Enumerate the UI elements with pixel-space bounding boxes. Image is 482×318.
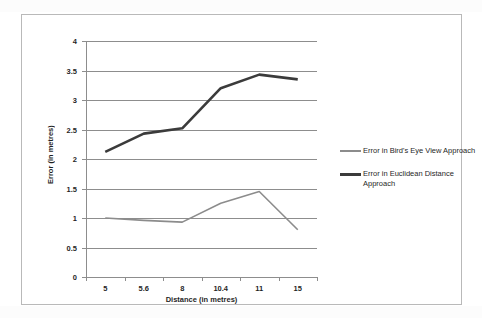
legend-item-birds-eye-view: Error in Bird's Eye View Approach — [340, 146, 480, 156]
chart-legend: Error in Bird's Eye View Approach Error … — [340, 146, 480, 202]
legend-item-euclidean-distance: Error in Euclidean Distance Approach — [340, 169, 480, 189]
legend-label-birds-eye-view: Error in Bird's Eye View Approach — [363, 146, 475, 156]
x-axis-tick — [240, 277, 241, 281]
y-axis-tick — [82, 248, 86, 249]
y-axis-tick-label: 2 — [73, 155, 77, 164]
legend-label-euclidean-distance: Error in Euclidean Distance Approach — [363, 169, 479, 189]
y-axis-tick-label: 2.5 — [67, 125, 77, 134]
y-axis-ticks: 00.511.522.533.54 — [86, 41, 87, 277]
y-axis-tick-label: 4 — [73, 37, 77, 46]
series-lines — [86, 41, 317, 277]
scan-tint-bottom — [0, 306, 482, 318]
x-axis-tick — [317, 277, 318, 281]
x-axis-tick-label: 15 — [294, 284, 302, 293]
y-axis-tick-label: 3.5 — [67, 66, 77, 75]
y-axis-tick-label: 1.5 — [67, 184, 77, 193]
x-axis-tick — [202, 277, 203, 281]
scan-tint-top — [0, 0, 482, 12]
y-axis-tick-label: 0 — [73, 273, 77, 282]
x-axis-tick-label: 10.4 — [213, 284, 228, 293]
series-line — [105, 191, 298, 229]
y-axis-tick — [82, 218, 86, 219]
plot-area — [86, 41, 317, 277]
x-axis-title: Distance (in metres) — [86, 295, 317, 304]
x-axis-tick-label: 5.6 — [139, 284, 149, 293]
y-axis-tick — [82, 130, 86, 131]
series-line — [105, 75, 298, 152]
y-axis-tick — [82, 189, 86, 190]
x-axis-tick — [86, 277, 87, 281]
x-axis-tick-label: 8 — [180, 284, 184, 293]
x-axis-tick — [279, 277, 280, 281]
x-axis-tick-label: 11 — [255, 284, 263, 293]
x-axis-tick — [125, 277, 126, 281]
y-axis-tick — [82, 100, 86, 101]
y-axis-title: Error (in metres) — [46, 115, 58, 195]
y-axis-tick — [82, 41, 86, 42]
y-axis-tick — [82, 71, 86, 72]
x-axis-tick-label: 5 — [103, 284, 107, 293]
y-axis-tick-label: 0.5 — [67, 243, 77, 252]
y-axis-tick-label: 3 — [73, 96, 77, 105]
y-axis-tick-label: 1 — [73, 214, 77, 223]
y-axis-tick — [82, 159, 86, 160]
x-axis-tick — [163, 277, 164, 281]
legend-swatch-euclidean-distance-icon — [340, 173, 361, 176]
chart-frame: 00.511.522.533.54 55.6810.41115 Distance… — [21, 14, 462, 305]
legend-swatch-birds-eye-view-icon — [340, 150, 361, 152]
